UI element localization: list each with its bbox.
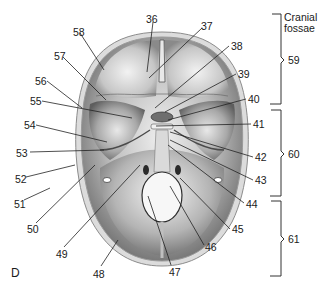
cranial-floor-figure: 36 37 38 39 40 41 42 43 44 45 46 47 48 4… bbox=[0, 0, 324, 289]
bracket-59 bbox=[270, 14, 284, 104]
label-39: 39 bbox=[238, 69, 250, 80]
label-58: 58 bbox=[73, 27, 85, 38]
bracket-60 bbox=[270, 110, 284, 196]
label-45: 45 bbox=[232, 224, 244, 235]
label-51: 51 bbox=[14, 199, 26, 210]
dorsum-sellae bbox=[151, 124, 173, 129]
bracket-61 bbox=[270, 201, 284, 276]
anterior-cranial-fossa-left bbox=[95, 40, 160, 98]
anterior-cranial-fossa-right bbox=[164, 40, 229, 98]
label-55: 55 bbox=[30, 96, 42, 107]
clivus bbox=[154, 130, 170, 172]
label-43: 43 bbox=[255, 175, 267, 186]
label-40: 40 bbox=[248, 94, 260, 105]
label-36: 36 bbox=[146, 14, 158, 25]
bracket-title-cranial-fossae: Cranial fossae bbox=[284, 12, 317, 34]
label-57: 57 bbox=[54, 51, 66, 62]
label-38: 38 bbox=[231, 41, 243, 52]
label-47: 47 bbox=[169, 267, 181, 278]
label-52: 52 bbox=[15, 174, 27, 185]
label-48: 48 bbox=[93, 269, 105, 280]
sella-turcica bbox=[151, 112, 173, 122]
bracket-title-line2: fossae bbox=[284, 23, 317, 34]
label-37: 37 bbox=[201, 21, 213, 32]
label-44: 44 bbox=[246, 199, 258, 210]
label-49: 49 bbox=[56, 249, 68, 260]
bracket-number-59: 59 bbox=[288, 55, 300, 66]
panel-letter: D bbox=[11, 266, 20, 280]
label-56: 56 bbox=[35, 76, 47, 87]
foramen-right bbox=[214, 178, 222, 183]
jugular-foramen-left bbox=[143, 165, 149, 175]
jugular-foramen-right bbox=[175, 165, 181, 175]
label-54: 54 bbox=[24, 120, 36, 131]
label-50: 50 bbox=[27, 224, 39, 235]
skull-base-illustration bbox=[0, 0, 324, 289]
label-41: 41 bbox=[253, 119, 265, 130]
label-53: 53 bbox=[16, 148, 28, 159]
bracket-number-61: 61 bbox=[288, 234, 300, 245]
label-42: 42 bbox=[255, 152, 267, 163]
label-46: 46 bbox=[205, 242, 217, 253]
crista-galli bbox=[159, 40, 165, 82]
bracket-number-60: 60 bbox=[288, 149, 300, 160]
fossa-brackets bbox=[270, 14, 284, 276]
foramen-left bbox=[103, 178, 111, 183]
